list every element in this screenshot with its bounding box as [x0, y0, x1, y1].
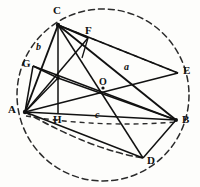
point-label-f: F — [85, 25, 92, 36]
geometry-figure: C A B D E F G H O a b c — [0, 0, 200, 187]
segment-a-d — [25, 112, 143, 158]
vertex-dot-a — [23, 110, 27, 114]
side-label-b: b — [36, 42, 41, 52]
point-label-e: E — [183, 65, 190, 76]
point-label-d: D — [147, 155, 155, 166]
segment-g-interior — [33, 66, 58, 78]
point-label-o: O — [99, 77, 107, 87]
vertex-dot-b — [174, 118, 178, 122]
segment-c-e — [58, 25, 178, 73]
side-label-c: c — [95, 110, 99, 120]
side-label-a: a — [124, 62, 129, 72]
figure-canvas — [0, 0, 200, 187]
point-label-g: G — [22, 58, 31, 69]
point-label-h: H — [53, 114, 62, 125]
segment-d-b — [143, 120, 176, 158]
side-cb — [58, 25, 176, 120]
vertex-dot-interior — [56, 76, 60, 80]
point-label-c: C — [53, 5, 61, 16]
segment-a-f — [25, 38, 88, 112]
point-label-a: A — [8, 104, 16, 115]
point-label-b: B — [182, 114, 189, 125]
vertex-dot-c — [56, 23, 60, 27]
chord-a-b-dashed — [26, 116, 176, 124]
